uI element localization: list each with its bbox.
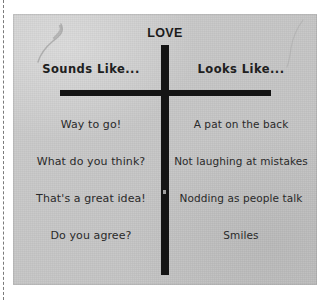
scanned-worksheet-page: LOVE Sounds Like... Looks Like... Way to…	[13, 14, 317, 285]
list-item: Nodding as people talk	[171, 180, 311, 217]
column-header-looks-like: Looks Like...	[173, 62, 309, 76]
list-item: Way to go!	[23, 106, 159, 143]
list-item: Not laughing at mistakes	[171, 143, 311, 180]
list-item: A pat on the back	[171, 106, 311, 143]
screenshot-canvas: LOVE Sounds Like... Looks Like... Way to…	[0, 0, 330, 300]
cross-horizontal-beam	[60, 90, 271, 96]
sounds-like-entry-list: Way to go! What do you think? That's a g…	[23, 106, 159, 254]
list-item: What do you think?	[23, 143, 159, 180]
ink-speck	[163, 190, 166, 194]
looks-like-entry-list: A pat on the back Not laughing at mistak…	[171, 106, 311, 254]
list-item: Smiles	[171, 217, 311, 254]
list-item: That's a great idea!	[23, 180, 159, 217]
cross-vertical-beam	[161, 45, 169, 275]
column-header-sounds-like: Sounds Like...	[25, 62, 157, 76]
dashed-cut-guide-line	[3, 0, 4, 300]
list-item: Do you agree?	[23, 217, 159, 254]
page-title: LOVE	[13, 26, 317, 40]
